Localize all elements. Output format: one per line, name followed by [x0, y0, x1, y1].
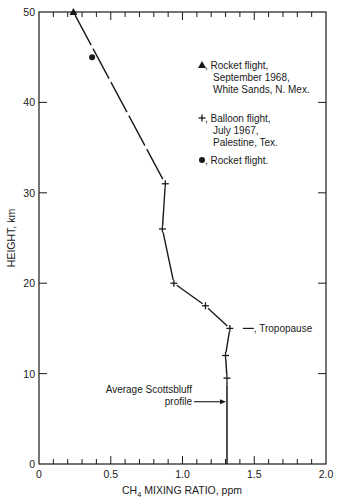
legend-entry-text: White Sands, N. Mex. — [213, 84, 310, 95]
legend-entry-text: Palestine, Tex. — [213, 137, 278, 148]
profile-segment — [75, 15, 164, 181]
profile-line — [75, 15, 229, 464]
x-tick-labels: 00.51.01.52.0 — [36, 468, 333, 480]
plus-marker — [226, 325, 233, 332]
legend-entry-text: July 1967, — [213, 125, 259, 136]
profile-segment — [163, 187, 165, 225]
legend-entry-text: , Balloon flight, — [205, 113, 271, 124]
legend-entry-text: September 1968, — [213, 72, 290, 83]
legend-entry-text: , Rocket flight. — [205, 155, 268, 166]
plus-marker — [223, 375, 230, 382]
y-tick-label: 10 — [23, 368, 35, 380]
annotations: , TropopauseAverage Scottsbluffprofile — [106, 323, 313, 407]
scottsbluff-label-line2: profile — [165, 396, 193, 407]
x-tick-label: 0.5 — [103, 468, 118, 480]
legend-entry-text: , Rocket flight, — [205, 60, 268, 71]
y-tick-label: 20 — [23, 277, 35, 289]
plus-marker — [159, 225, 166, 232]
x-tick-label: 1.0 — [175, 468, 190, 480]
methane-profile-chart: 00.51.01.52.0 01020304050 , Rocket fligh… — [0, 0, 337, 503]
tropopause-label: , Tropopause — [254, 323, 313, 334]
x-tick-label: 0 — [36, 468, 42, 480]
profile-segment — [226, 332, 229, 352]
plus-marker — [202, 302, 209, 309]
y-tick-labels: 01020304050 — [23, 6, 35, 470]
profile-segment — [208, 308, 227, 326]
plus-marker — [222, 352, 229, 359]
arrow-head-icon — [220, 399, 226, 404]
y-tick-label: 40 — [23, 96, 35, 108]
legend: , Rocket flight,September 1968,White San… — [198, 60, 310, 166]
plus-marker — [162, 180, 169, 187]
x-tick-label: 1.5 — [247, 468, 262, 480]
x-axis-label: CH4 MIXING RATIO, ppm — [122, 484, 242, 499]
profile-segment — [163, 232, 173, 279]
circle-marker — [89, 54, 95, 60]
y-tick-label: 50 — [23, 6, 35, 18]
profile-segment — [226, 359, 227, 375]
y-axis-label: HEIGHT, km — [5, 209, 17, 268]
scottsbluff-label-line1: Average Scottsbluff — [106, 384, 193, 395]
y-tick-label: 0 — [29, 458, 35, 470]
plus-marker — [170, 280, 177, 287]
y-tick-label: 30 — [23, 187, 35, 199]
x-tick-label: 2.0 — [319, 468, 334, 480]
profile-segment — [177, 285, 203, 304]
